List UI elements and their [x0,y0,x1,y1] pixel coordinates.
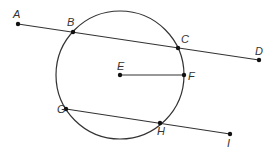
line-AD [18,24,259,60]
label-a: A [12,8,20,20]
point-d [257,58,261,62]
geometry-diagram: ABCDEFGHI [0,0,280,154]
point-a [16,22,20,26]
label-b: B [67,16,74,28]
point-b [71,30,75,34]
label-g: G [57,103,66,115]
label-h: H [157,125,165,137]
label-f: F [188,70,196,82]
label-i: I [227,137,230,149]
label-c: C [181,33,189,45]
point-i [228,132,232,136]
label-e: E [117,60,125,72]
label-d: D [255,45,263,57]
point-f [182,73,186,77]
line-GI [66,109,230,134]
point-e [118,73,122,77]
point-c [176,46,180,50]
